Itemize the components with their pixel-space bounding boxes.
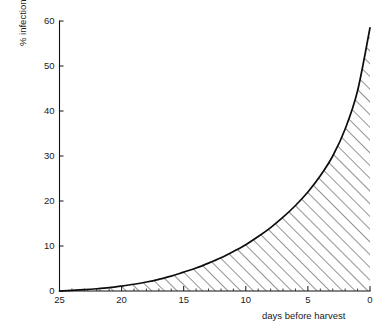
x-axis-tick-label: 20: [116, 294, 127, 305]
y-axis-title: % infection: [17, 0, 28, 46]
x-axis-tick-label: 0: [367, 294, 372, 305]
x-axis-tick-label: 15: [178, 294, 189, 305]
y-axis-tick-label: 60: [44, 15, 55, 26]
x-axis-tick-label: 25: [54, 294, 65, 305]
hatched-area-under-curve: [60, 28, 371, 291]
y-axis-tick-label: 30: [44, 150, 55, 161]
y-axis: 0102030405060: [44, 15, 64, 296]
y-axis-tick-label: 20: [44, 195, 55, 206]
y-axis-tick-label: 50: [44, 60, 55, 71]
x-axis-tick-label: 10: [241, 294, 252, 305]
y-axis-tick-label: 10: [44, 240, 55, 251]
hatch-region: [60, 28, 371, 291]
x-axis-tick-label: 5: [305, 294, 310, 305]
y-axis-tick-label: 40: [44, 105, 55, 116]
infection-curve-chart: 0102030405060 2520151050 % infection day…: [0, 0, 390, 334]
x-axis-title: days before harvest: [262, 310, 346, 321]
chart-page: 0102030405060 2520151050 % infection day…: [0, 0, 390, 334]
